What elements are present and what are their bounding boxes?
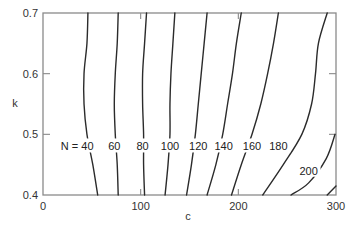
contour-label: 200 bbox=[299, 165, 317, 177]
contour-labels: N = 406080100120140160180200 bbox=[55, 138, 320, 176]
x-tick-label: 0 bbox=[40, 200, 46, 212]
contour-label: 140 bbox=[215, 140, 233, 152]
y-tick-label: 0.5 bbox=[23, 128, 38, 140]
y-tick-label: 0.7 bbox=[23, 7, 38, 19]
x-axis-label: c bbox=[185, 210, 191, 222]
contour-line-40 bbox=[84, 13, 98, 195]
x-axis: 0100200300 bbox=[40, 13, 345, 212]
contour-label: 60 bbox=[108, 140, 120, 152]
x-tick-label: 100 bbox=[131, 200, 149, 212]
y-axis: 0.40.50.60.7 bbox=[23, 7, 336, 201]
contour-line-140 bbox=[207, 13, 241, 195]
y-tick-label: 0.4 bbox=[23, 189, 38, 201]
contour-chart: 0100200300 0.40.50.60.7 N = 406080100120… bbox=[0, 0, 358, 228]
y-axis-label: k bbox=[12, 97, 18, 109]
contour-label: 160 bbox=[243, 140, 261, 152]
x-tick-label: 200 bbox=[229, 200, 247, 212]
contour-line-160 bbox=[231, 13, 278, 195]
contour-line-120 bbox=[187, 13, 208, 195]
contour-label: N = 40 bbox=[61, 140, 94, 152]
contour-label: 120 bbox=[189, 140, 207, 152]
contour-line-220 bbox=[327, 186, 336, 195]
x-tick-label: 300 bbox=[327, 200, 345, 212]
contour-label: 80 bbox=[136, 140, 148, 152]
y-tick-label: 0.6 bbox=[23, 68, 38, 80]
contour-line-100 bbox=[165, 13, 175, 195]
contour-label: 100 bbox=[161, 140, 179, 152]
contour-line-80 bbox=[142, 13, 146, 195]
contour-label: 180 bbox=[269, 140, 287, 152]
contour-line-60 bbox=[114, 13, 118, 195]
